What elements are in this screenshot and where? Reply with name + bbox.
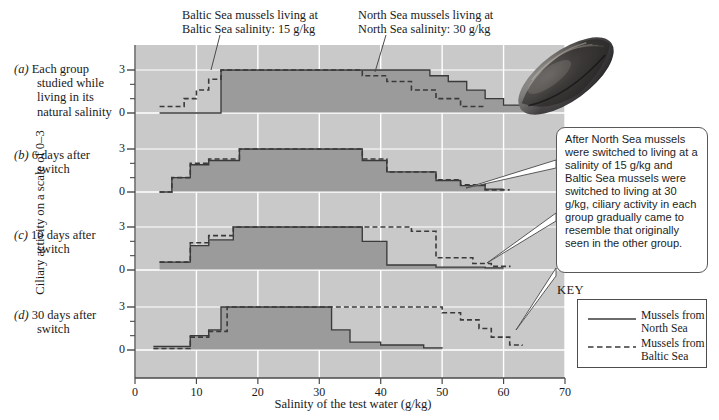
panel-a-line4: natural salinity: [14, 105, 112, 119]
panel-marker-d: (d): [14, 308, 29, 322]
x-tick-label: 50: [428, 385, 456, 400]
y-tick-label: 0: [112, 105, 125, 120]
y-tick-label: 3: [112, 62, 125, 77]
key-baltic-line1: Mussels from: [641, 338, 704, 351]
annotation-baltic-line2: Baltic Sea salinity: 15 g/kg: [182, 22, 387, 36]
x-tick-label: 20: [244, 385, 272, 400]
panel-label-b: (b) 6 days after switch: [14, 148, 126, 176]
annotation-north-line1: North Sea mussels living at: [358, 8, 563, 22]
key-title: KEY: [557, 283, 584, 298]
y-tick-label: 3: [112, 299, 125, 314]
panel-label-a: (a) Each group studied while living in i…: [14, 62, 126, 119]
panel-marker-a: (a): [14, 62, 29, 76]
callout-text: After North Sea mussels were switched to…: [565, 133, 700, 250]
y-tick-label: 0: [112, 262, 125, 277]
y-tick-label: 3: [112, 219, 125, 234]
key-baltic-line2: Baltic Sea: [641, 351, 704, 364]
panel-a-line2: studied while: [14, 76, 104, 90]
y-tick-label: 0: [112, 342, 125, 357]
panel-marker-c: (c): [14, 228, 28, 242]
annotation-north-line2: North Sea salinity: 30 g/kg: [358, 22, 563, 36]
panel-label-d: (d) 30 days after switch: [14, 308, 126, 336]
panel-label-c: (c) 10 days after switch: [14, 228, 126, 256]
x-tick-label: 0: [121, 385, 149, 400]
panel-a-line3: living in its: [14, 90, 94, 104]
key-north-line2: North Sea: [641, 323, 704, 336]
key-box: Mussels from North Sea Mussels from Balt…: [577, 299, 707, 368]
annotation-north-top: North Sea mussels living at North Sea sa…: [358, 8, 563, 37]
y-tick-label: 0: [112, 184, 125, 199]
panel-a-line1: Each group: [32, 62, 89, 76]
panel-d-line2: switch: [14, 322, 70, 336]
figure-root: Baltic Sea mussels living at Baltic Sea …: [0, 0, 719, 420]
x-tick-label: 30: [305, 385, 333, 400]
x-tick-label: 10: [182, 385, 210, 400]
panel-marker-b: (b): [14, 148, 29, 162]
y-axis-title: Ciliary activity on a scale of 0–3: [33, 118, 48, 308]
annotation-baltic-top: Baltic Sea mussels living at Baltic Sea …: [182, 8, 387, 37]
x-tick-label: 40: [367, 385, 395, 400]
key-north-line1: Mussels from: [641, 310, 704, 323]
key-item-baltic-sea: Mussels from Baltic Sea: [641, 338, 704, 363]
x-tick-label: 70: [551, 385, 579, 400]
panel-d-line1: 30 days after: [32, 308, 97, 322]
annotation-baltic-line1: Baltic Sea mussels living at: [182, 8, 387, 22]
callout-box: After North Sea mussels were switched to…: [556, 127, 708, 273]
x-tick-label: 60: [490, 385, 518, 400]
y-tick-label: 3: [112, 141, 125, 156]
key-item-north-sea: Mussels from North Sea: [641, 310, 704, 335]
